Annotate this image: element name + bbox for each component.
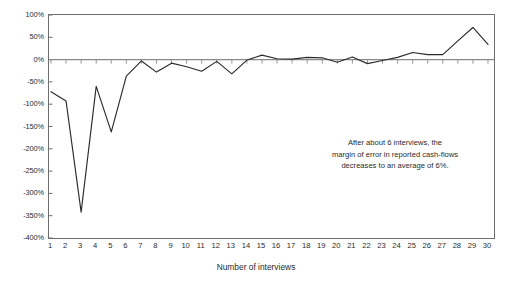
- x-tick-label: 28: [453, 241, 461, 250]
- x-tick-label: 16: [272, 241, 280, 250]
- annotation-line-1: After about 6 interviews, the: [296, 137, 494, 149]
- y-tick-label: 100%: [25, 10, 44, 19]
- annotation-line-3: decreases to an average of 6%.: [296, 160, 494, 172]
- x-tick-label: 27: [438, 241, 446, 250]
- y-tick-label: -300%: [23, 188, 44, 197]
- x-tick-label: 18: [302, 241, 310, 250]
- x-tick-label: 10: [181, 241, 189, 250]
- y-tick-label: -150%: [23, 121, 44, 130]
- x-tick-label: 11: [197, 241, 205, 250]
- y-tick-label: -100%: [23, 99, 44, 108]
- x-tick-label: 29: [468, 241, 476, 250]
- y-tick-label: -250%: [23, 166, 44, 175]
- x-tick-label: 23: [377, 241, 385, 250]
- y-tick-label: 50%: [30, 32, 45, 41]
- x-tick-label: 20: [332, 241, 340, 250]
- y-tick-label: 0%: [34, 54, 44, 63]
- annotation-line-2: margin of error in reported cash-flows: [296, 149, 494, 161]
- x-tick-label: 5: [108, 241, 112, 250]
- chart-figure: 100%50%0%-50%-100%-150%-200%-250%-300%-3…: [0, 0, 512, 288]
- x-tick-label: 25: [407, 241, 415, 250]
- y-tick-label: -400%: [23, 233, 44, 242]
- x-tick-label: 1: [48, 241, 52, 250]
- x-tick-label: 6: [123, 241, 127, 250]
- x-tick-label: 12: [212, 241, 220, 250]
- x-tick-label: 30: [483, 241, 491, 250]
- y-tick-label: -200%: [23, 143, 44, 152]
- y-tick-label: -350%: [23, 210, 44, 219]
- x-axis-label: Number of interviews: [0, 262, 512, 272]
- x-tick-label: 22: [362, 241, 370, 250]
- chart-annotation: After about 6 interviews, the margin of …: [296, 137, 494, 172]
- x-axis-tick-labels: 1234567891011121314151617181920212223242…: [48, 241, 495, 255]
- x-tick-label: 4: [93, 241, 97, 250]
- x-tick-label: 13: [227, 241, 235, 250]
- x-tick-label: 9: [168, 241, 172, 250]
- series-canvas: [49, 15, 494, 238]
- x-tick-label: 7: [138, 241, 142, 250]
- x-tick-label: 15: [257, 241, 265, 250]
- x-tick-label: 8: [153, 241, 157, 250]
- y-tick-label: -50%: [27, 76, 44, 85]
- x-tick-label: 19: [317, 241, 325, 250]
- plot-area: [48, 14, 495, 239]
- x-tick-label: 17: [287, 241, 295, 250]
- y-axis-tick-marks: [49, 15, 53, 238]
- x-tick-label: 2: [63, 241, 67, 250]
- x-tick-label: 14: [242, 241, 250, 250]
- data-series-line: [51, 27, 488, 212]
- x-tick-label: 3: [78, 241, 82, 250]
- x-tick-label: 24: [392, 241, 400, 250]
- x-tick-label: 21: [347, 241, 355, 250]
- x-tick-label: 26: [422, 241, 430, 250]
